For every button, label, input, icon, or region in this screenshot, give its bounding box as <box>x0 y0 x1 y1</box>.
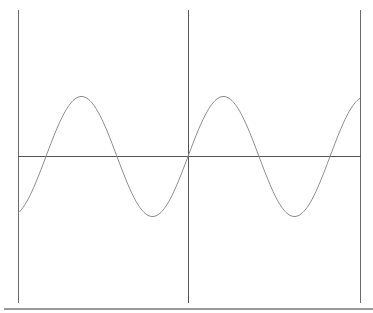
bottom-rule <box>4 308 373 310</box>
sine-plot <box>0 0 373 313</box>
